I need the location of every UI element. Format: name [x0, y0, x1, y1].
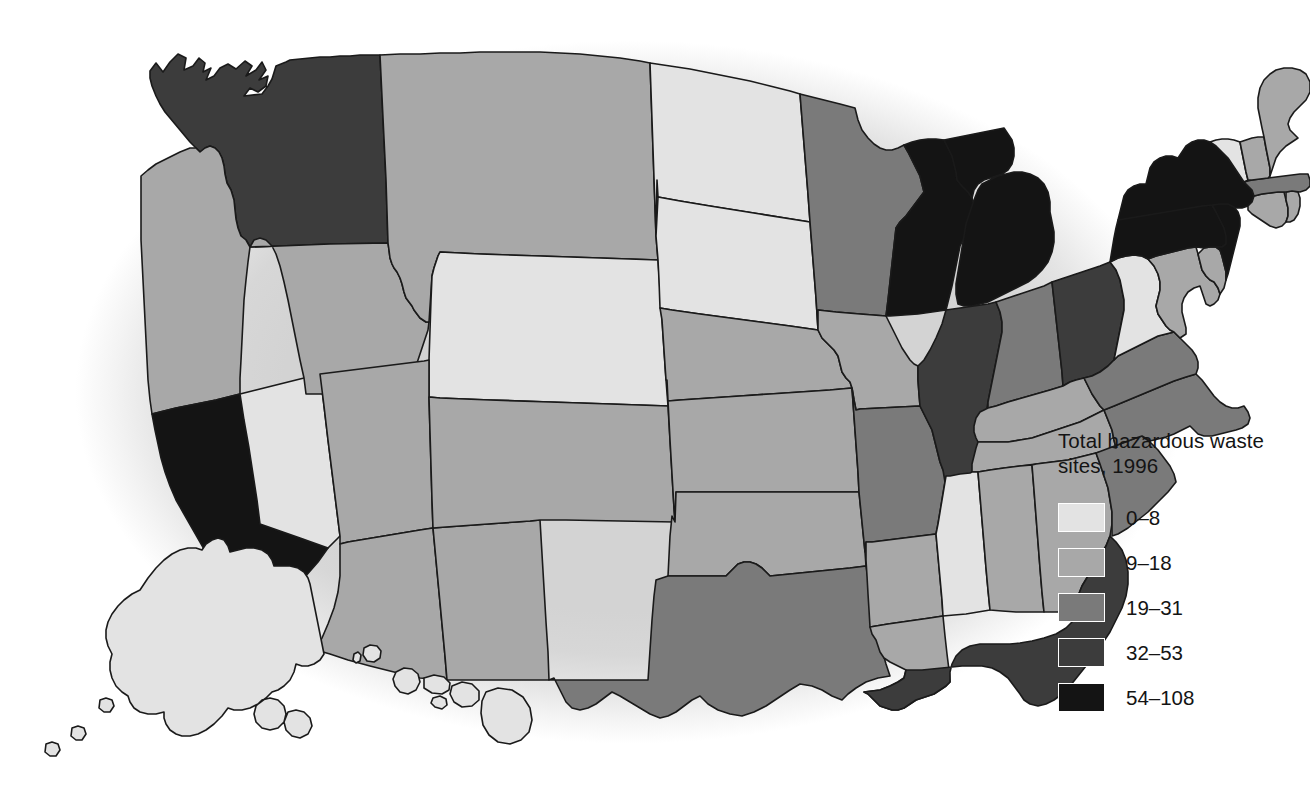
- state-HI[interactable]: Hawaii: 0–8: [353, 652, 361, 663]
- map-figure: Washington: 32–53 Oregon: 9–18 Californi…: [0, 0, 1310, 801]
- legend-swatch-4: [1058, 683, 1105, 712]
- legend-row-1[interactable]: 9–18: [1058, 540, 1308, 585]
- legend-title: Total hazardous waste sites, 1996: [1058, 428, 1298, 478]
- legend-title-line1: Total hazardous waste: [1058, 429, 1264, 452]
- state-NM[interactable]: New Mexico: 9–18: [433, 520, 549, 680]
- state-AK[interactable]: Alaska: 0–8: [45, 538, 324, 756]
- legend-swatch-3: [1058, 638, 1105, 667]
- state-AR[interactable]: Arkansas: 9–18: [866, 534, 943, 627]
- state-OK[interactable]: Oklahoma: 9–18: [668, 492, 866, 576]
- state-CO[interactable]: Colorado: 9–18: [429, 397, 675, 528]
- state-AZ[interactable]: Arizona: 9–18: [316, 528, 447, 680]
- state-CT[interactable]: Connecticut: 9–18: [1248, 192, 1288, 228]
- legend-label-1: 9–18: [1126, 551, 1172, 575]
- state-HI[interactable]: Hawaii: 0–8: [450, 682, 479, 707]
- state-HI[interactable]: Hawaii: 0–8: [363, 645, 381, 662]
- legend-row-3[interactable]: 32–53: [1058, 630, 1308, 675]
- legend-row-0[interactable]: 0–8: [1058, 495, 1308, 540]
- legend-swatch-0: [1058, 503, 1105, 532]
- legend-swatch-2: [1058, 593, 1105, 622]
- legend-label-3: 32–53: [1126, 641, 1183, 665]
- state-HI[interactable]: Hawaii: 0–8: [393, 668, 420, 694]
- state-TX[interactable]: Texas: 19–31: [549, 562, 890, 718]
- state-HI[interactable]: Hawaii: 0–8: [481, 688, 532, 744]
- legend-label-0: 0–8: [1126, 506, 1160, 530]
- state-RI[interactable]: Rhode Island: 9–18: [1286, 191, 1300, 222]
- legend-swatch-1: [1058, 548, 1105, 577]
- legend-row-4[interactable]: 54–108: [1058, 675, 1308, 720]
- legend-label-2: 19–31: [1126, 596, 1183, 620]
- map-legend: Total hazardous waste sites, 1996 0–89–1…: [1058, 428, 1308, 720]
- legend-row-2[interactable]: 19–31: [1058, 585, 1308, 630]
- legend-label-4: 54–108: [1126, 686, 1194, 710]
- state-HI[interactable]: Hawaii: 0–8: [431, 696, 447, 709]
- state-WY[interactable]: Wyoming: 0–8: [429, 252, 668, 406]
- legend-rows: 0–89–1819–3132–5354–108: [1058, 495, 1308, 720]
- state-UT[interactable]: Utah: 9–18: [320, 360, 433, 544]
- legend-title-line2: sites, 1996: [1058, 454, 1158, 477]
